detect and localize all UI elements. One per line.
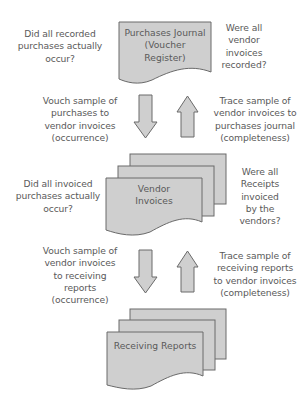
receiving-reports-label: Receiving Reports	[107, 340, 203, 352]
vendor-invoices-label-line: Vendor	[106, 183, 202, 195]
vouch-arrow-2-down-icon	[134, 250, 157, 293]
question-line: Were all	[230, 166, 290, 178]
question-line: Were all	[214, 22, 274, 34]
procedure-vouch-vendor-invoices: Vouch sample of vendor invoices to recei…	[40, 245, 120, 306]
question-line: occur?	[8, 203, 108, 215]
question-line: invoiced	[230, 191, 290, 203]
procedure-line: reports	[40, 282, 120, 294]
procedure-line: vendor invoices	[40, 120, 120, 132]
question-line: Did all recorded	[10, 28, 110, 40]
procedure-trace-receiving-reports: Trace sample of receiving reports to ven…	[205, 250, 305, 299]
question-recorded-purchases-occur: Did all recorded purchases actually occu…	[10, 28, 110, 65]
procedure-line: to receiving	[40, 270, 120, 282]
question-line: Did all invoiced	[8, 178, 108, 190]
question-line: recorded?	[214, 59, 274, 71]
procedure-line: Vouch sample of	[40, 245, 120, 257]
procedure-line: Trace sample of	[205, 250, 305, 262]
purchases-journal-label: Purchases Journal (Voucher Register)	[119, 27, 211, 64]
question-line: purchases actually	[10, 40, 110, 52]
vendor-invoices-label-line: Invoices	[106, 195, 202, 207]
procedure-line: (completeness)	[205, 132, 305, 144]
procedure-line: (completeness)	[205, 287, 305, 299]
question-line: occur?	[10, 53, 110, 65]
procedure-line: vendor invoices	[40, 257, 120, 269]
question-receipts-invoiced: Were all Receipts invoiced by the vendor…	[230, 166, 290, 227]
procedure-trace-vendor-invoices: Trace sample of vendor invoices to purch…	[205, 95, 305, 144]
trace-arrow-2-up-icon	[177, 251, 198, 292]
question-line: Receipts	[230, 178, 290, 190]
procedure-line: (occurrence)	[40, 132, 120, 144]
procedure-line: vendor invoices to	[205, 107, 305, 119]
question-line: invoices	[214, 47, 274, 59]
trace-arrow-1-up-icon	[177, 96, 198, 137]
purchases-journal-label-line: Register)	[119, 52, 211, 64]
purchases-journal-label-line: (Voucher	[119, 39, 211, 51]
procedure-line: Vouch sample of	[40, 95, 120, 107]
vouch-arrow-1-down-icon	[134, 95, 157, 138]
procedure-line: (occurrence)	[40, 294, 120, 306]
procedure-vouch-purchases: Vouch sample of purchases to vendor invo…	[40, 95, 120, 144]
question-line: by the	[230, 203, 290, 215]
question-vendor-invoices-recorded: Were all vendor invoices recorded?	[214, 22, 274, 71]
procedure-line: receiving reports	[205, 262, 305, 274]
question-line: purchases actually	[8, 190, 108, 202]
procedure-line: purchases journal	[205, 120, 305, 132]
receiving-reports-label-line: Receiving Reports	[107, 340, 203, 352]
procedure-line: Trace sample of	[205, 95, 305, 107]
question-invoiced-purchases-occur: Did all invoiced purchases actually occu…	[8, 178, 108, 215]
vendor-invoices-label: Vendor Invoices	[106, 183, 202, 208]
question-line: vendor	[214, 34, 274, 46]
purchases-journal-label-line: Purchases Journal	[119, 27, 211, 39]
procedure-line: purchases to	[40, 107, 120, 119]
procedure-line: to vendor invoices	[205, 275, 305, 287]
question-line: vendors?	[230, 215, 290, 227]
